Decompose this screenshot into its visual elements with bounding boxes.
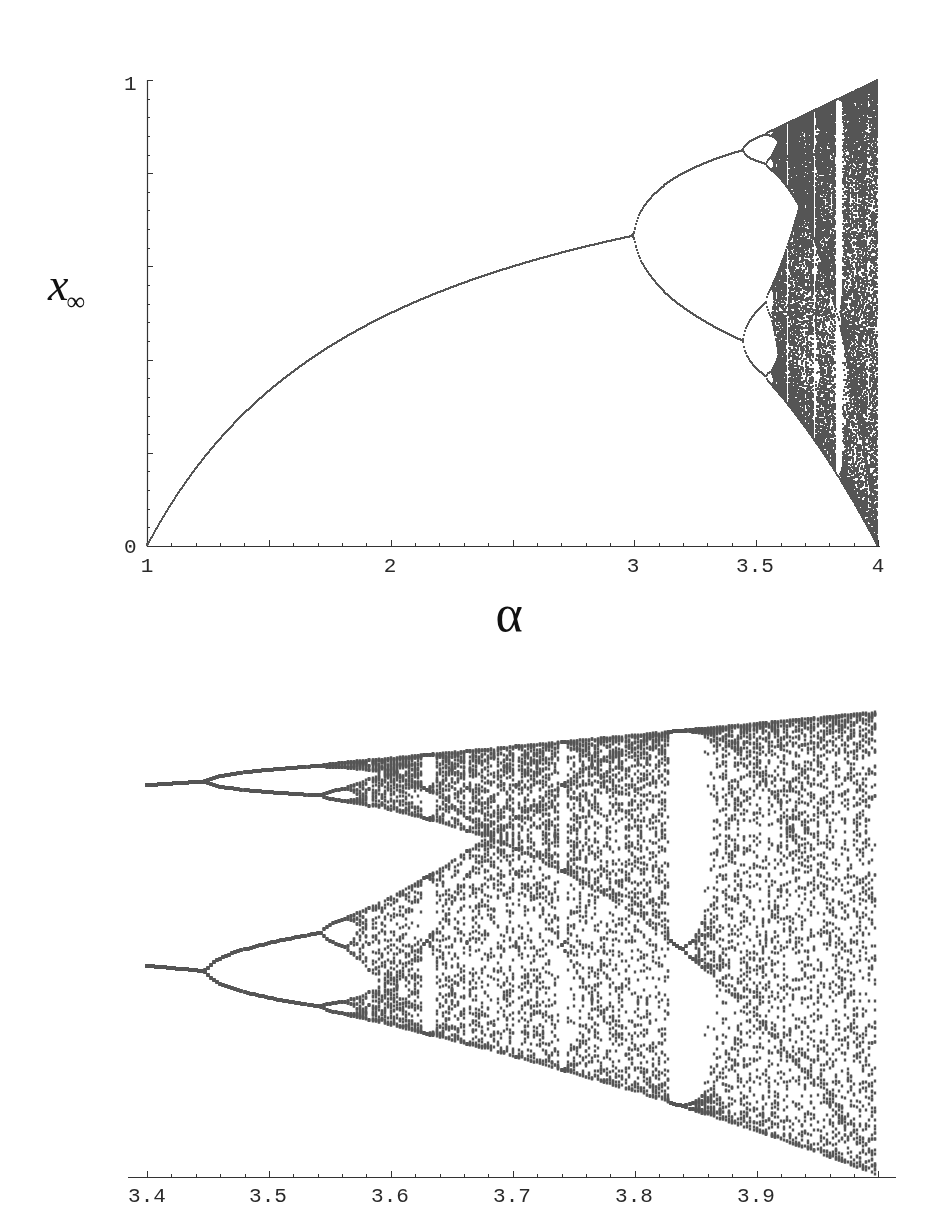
- bottom-x-tick-label-3-7: 3.7: [493, 1186, 531, 1207]
- top-x-tick-label-1: 1: [141, 556, 154, 577]
- top-x-axis-label: α: [495, 588, 522, 640]
- bottom-x-tick-label-3-6: 3.6: [371, 1186, 409, 1207]
- top-y-tick-label-0: 0: [124, 537, 137, 558]
- bottom-x-tick-label-3-5: 3.5: [249, 1186, 287, 1207]
- top-y-axis-label: x∞: [48, 262, 87, 308]
- top-x-tick-label-2: 2: [384, 556, 397, 577]
- top-x-tick-label-3: 3: [627, 556, 640, 577]
- top-y-tick-label-1: 1: [124, 74, 137, 95]
- top-x-tick-label-3-5: 3.5: [736, 556, 774, 577]
- bottom-x-tick-label-3-8: 3.8: [615, 1186, 653, 1207]
- y-axis-label-subscript: ∞: [66, 287, 85, 316]
- bottom-x-tick-label-3-9: 3.9: [737, 1186, 775, 1207]
- bifurcation-plots-canvas: [0, 0, 934, 1211]
- bottom-x-tick-label-3-4: 3.4: [128, 1186, 166, 1207]
- top-x-tick-label-4: 4: [872, 556, 885, 577]
